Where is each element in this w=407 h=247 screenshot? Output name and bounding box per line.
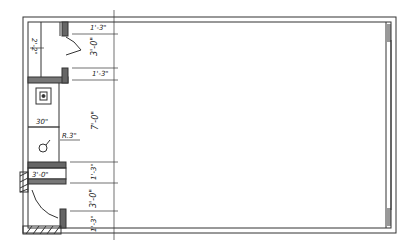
label-door-opening: 3'-0" [89,189,98,208]
label-lower-jamb: 1'-3" [90,163,98,180]
label-top-jamb: 1'-3" [90,24,107,32]
label-second-jamb: 1'-3" [92,70,109,78]
label-bottom-jamb: 1'-3" [90,215,98,232]
label-vanity-width: 30" [36,118,48,126]
label-middle-run: 7'-0" [91,111,100,130]
floor-plan: 2'-2" 1'-3" 3'-0" 1'-3" 7'-0" 30" R.3" 3… [0,0,407,247]
label-lav-radius: R.3" [62,132,77,140]
label-top-opening: 3'-0" [90,37,99,56]
dimension-labels: 2'-2" 1'-3" 3'-0" 1'-3" 7'-0" 30" R.3" 3… [30,24,109,232]
label-closet-width: 2'-2" [30,38,38,55]
label-shelf-length: 3'-0" [32,171,49,179]
outer-walls [23,17,396,233]
